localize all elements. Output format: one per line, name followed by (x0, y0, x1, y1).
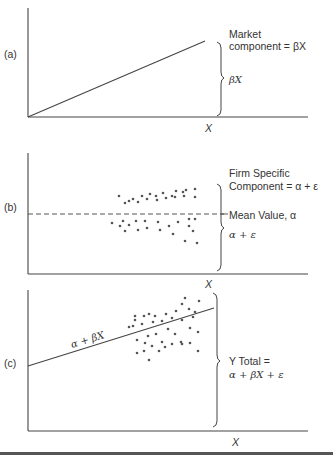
scatter-point (159, 229, 162, 232)
scatter-point (132, 325, 135, 328)
y-total-label-line1: Y Total = (229, 355, 270, 367)
scatter-point (167, 328, 170, 331)
scatter-point (143, 315, 146, 318)
scatter-point (128, 326, 131, 329)
mean-value-label: Mean Value, α (229, 209, 296, 221)
panel-c-tag: (c) (4, 357, 16, 369)
scatter-point (171, 317, 174, 320)
scatter-point (144, 342, 147, 345)
scatter-point (192, 316, 195, 319)
scatter-point (197, 331, 200, 334)
scatter-point (188, 308, 191, 311)
scatter-point (141, 323, 144, 326)
scatter-point (177, 221, 180, 224)
scatter-point (111, 222, 114, 225)
scatter-point (149, 193, 152, 196)
panel-c-brace (213, 293, 220, 427)
total-y-scatter (128, 297, 201, 362)
scatter-point (155, 195, 158, 198)
scatter-point (157, 221, 160, 224)
scatter-point (180, 341, 183, 344)
scatter-point (134, 315, 137, 318)
figure-canvas: α + βX (0, 0, 333, 461)
scatter-point (136, 352, 139, 355)
scatter-point (155, 333, 158, 336)
scatter-point (184, 297, 187, 300)
scatter-point (188, 218, 191, 221)
scatter-point (189, 327, 192, 330)
scatter-point (118, 195, 121, 198)
scatter-point (148, 313, 151, 316)
panel-a-tag: (a) (4, 48, 17, 60)
scatter-point (194, 196, 197, 199)
scatter-point (174, 333, 177, 336)
scatter-point (156, 199, 159, 202)
scatter-point (122, 220, 125, 223)
panel-a (28, 8, 308, 117)
scatter-point (151, 345, 154, 348)
scatter-point (124, 230, 127, 233)
scatter-point (119, 225, 122, 228)
scatter-point (124, 202, 127, 205)
scatter-point (152, 321, 155, 324)
scatter-point (172, 233, 175, 236)
scatter-point (146, 198, 149, 201)
scatter-point (148, 359, 151, 362)
market-label-line2: component = βX (229, 40, 306, 52)
scatter-point (165, 197, 168, 200)
scatter-point (184, 240, 187, 243)
scatter-point (161, 341, 164, 344)
panel-c-x-axis-label: X (232, 436, 239, 448)
scatter-point (132, 198, 135, 201)
scatter-point (128, 224, 131, 227)
scatter-point (128, 200, 131, 203)
scatter-point (154, 315, 157, 318)
scatter-point (146, 227, 149, 230)
alpha-epsilon-label: α + ε (229, 229, 256, 241)
scatter-point (137, 229, 140, 232)
scatter-point (136, 339, 139, 342)
scatter-point (134, 319, 137, 322)
scatter-point (196, 242, 199, 245)
y-total-label-line2: α + βX + ε (229, 369, 284, 381)
panel-b-tag: (b) (4, 201, 17, 213)
scatter-point (198, 300, 201, 303)
panel-b-brace (217, 184, 224, 271)
scatter-point (194, 218, 197, 221)
scatter-point (194, 188, 197, 191)
panel-b-x-axis-label: X (205, 278, 212, 290)
scatter-point (171, 343, 174, 346)
scatter-point (158, 350, 161, 353)
scatter-point (164, 346, 167, 349)
scatter-point (141, 195, 144, 198)
scatter-point (165, 313, 168, 316)
scatter-point (175, 310, 178, 313)
scatter-point (135, 220, 138, 223)
firm-specific-scatter (111, 188, 199, 245)
scatter-point (174, 196, 177, 199)
scatter-point (182, 191, 185, 194)
scatter-point (171, 195, 174, 198)
scatter-point (147, 335, 150, 338)
scatter-point (185, 189, 188, 192)
scatter-point (175, 190, 178, 193)
scatter-point (189, 342, 192, 345)
firm-specific-label-line2: Component = α + ε (229, 180, 318, 192)
scatter-point (194, 311, 197, 314)
bottom-divider (0, 452, 333, 455)
alpha-plus-beta-x-line (28, 308, 214, 366)
scatter-point (161, 320, 164, 323)
scatter-point (144, 220, 147, 223)
firm-specific-label-line1: Firm Specific (229, 167, 290, 179)
scatter-point (181, 319, 184, 322)
beta-x-label: βX (229, 74, 242, 86)
scatter-point (168, 225, 171, 228)
scatter-point (188, 225, 191, 228)
scatter-point (137, 201, 140, 204)
scatter-point (197, 350, 200, 353)
panel-a-brace (217, 42, 224, 116)
market-label-line1: Market (229, 28, 261, 40)
scatter-point (183, 195, 186, 198)
scatter-point (162, 192, 165, 195)
scatter-point (143, 350, 146, 353)
